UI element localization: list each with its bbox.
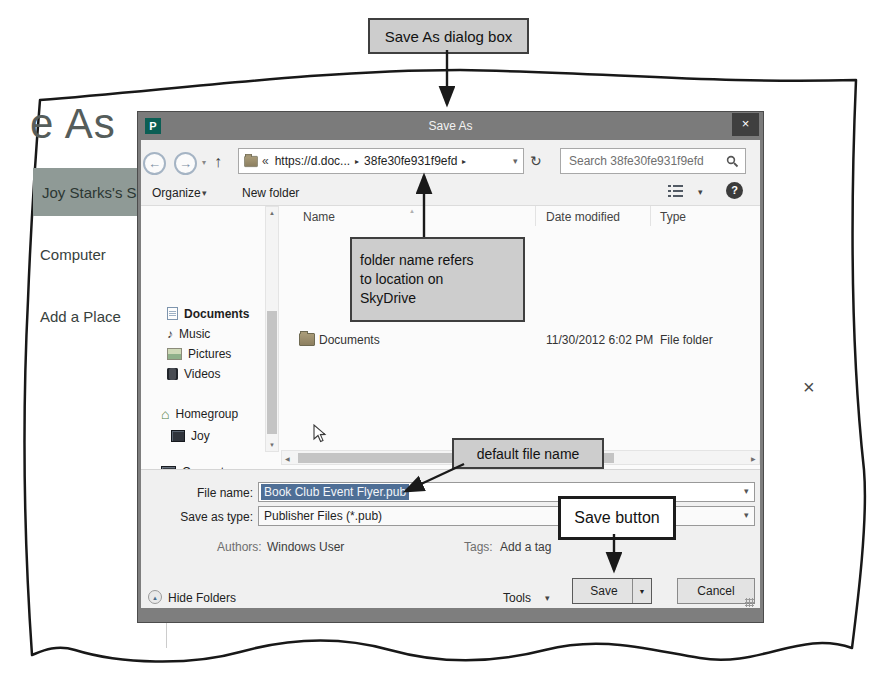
callout-default-filename: default file name — [452, 438, 604, 469]
save-as-dialog: P Save As × ← → ▾ ↑ « https://d.doc... ▸… — [138, 112, 763, 622]
column-header-type[interactable]: Type — [660, 210, 686, 224]
sidebar-item-pictures[interactable]: Pictures — [167, 346, 231, 361]
breadcrumb-folder[interactable]: 38fe30fe931f9efd — [364, 154, 457, 168]
scroll-right-icon[interactable]: ▶ — [751, 455, 756, 462]
dialog-titlebar[interactable]: P Save As × — [138, 112, 763, 140]
tags-label: Tags: — [464, 540, 493, 554]
breadcrumb-chevrons[interactable]: « — [262, 154, 269, 168]
history-dropdown-icon[interactable]: ▾ — [202, 158, 206, 167]
forward-icon[interactable]: → — [174, 152, 197, 175]
file-name-label: File name: — [158, 486, 253, 500]
column-divider[interactable] — [535, 206, 536, 226]
sidebar-item-music[interactable]: ♪ Music — [167, 326, 210, 341]
change-view-icon[interactable] — [668, 185, 683, 197]
file-row-name[interactable]: Documents — [319, 333, 380, 347]
tags-value[interactable]: Add a tag — [500, 540, 551, 554]
hide-folders-arrow-icon[interactable]: ▲ — [148, 590, 162, 604]
tools-button[interactable]: Tools — [503, 591, 531, 605]
hide-folders-button[interactable]: Hide Folders — [168, 591, 236, 605]
backstage-divider-line — [166, 622, 167, 648]
music-note-icon: ♪ — [167, 328, 173, 340]
close-button[interactable]: × — [732, 113, 759, 136]
sidebar-item-homegroup[interactable]: ⌂ Homegroup — [161, 406, 238, 421]
monitor-icon — [171, 430, 185, 442]
dialog-frame-bottom — [138, 608, 763, 622]
file-name-input[interactable]: Book Club Event Flyer.pub ▾ — [258, 482, 755, 502]
organize-dropdown-icon[interactable]: ▾ — [202, 188, 207, 198]
column-divider[interactable] — [650, 206, 651, 226]
film-icon — [167, 368, 178, 380]
up-icon[interactable]: ↑ — [214, 153, 222, 171]
save-button[interactable]: Save ▼ — [572, 578, 652, 604]
folder-icon — [299, 333, 315, 349]
dialog-title: Save As — [138, 119, 763, 133]
stray-x-mark: × — [803, 376, 815, 399]
backstage-item-skydrive[interactable]: Joy Starks's Sky — [42, 184, 152, 201]
scroll-down-icon[interactable]: ▼ — [269, 442, 275, 448]
cancel-button[interactable]: Cancel — [677, 578, 755, 604]
file-row-date[interactable]: 11/30/2012 6:02 PM — [546, 333, 653, 347]
save-type-label: Save as type: — [158, 510, 253, 524]
backstage-item-add-place[interactable]: Add a Place — [40, 308, 121, 325]
callout-save-button: Save button — [558, 496, 676, 540]
scroll-up-icon[interactable]: ▲ — [269, 210, 275, 216]
sort-indicator-icon: ▲ — [409, 208, 415, 214]
back-icon[interactable]: ← — [143, 152, 166, 175]
scroll-left-icon[interactable]: ◀ — [285, 455, 290, 462]
breadcrumb-root[interactable]: https://d.doc... — [275, 154, 350, 168]
save-split-dropdown-icon[interactable]: ▼ — [632, 579, 651, 603]
help-icon[interactable]: ? — [726, 182, 743, 199]
callout-dialog-box: Save As dialog box — [368, 18, 529, 54]
picture-icon — [167, 348, 182, 360]
homegroup-icon: ⌂ — [161, 408, 169, 420]
breadcrumb-separator-icon: ▸ — [355, 157, 359, 166]
tools-dropdown-icon[interactable]: ▾ — [545, 593, 550, 603]
new-folder-button[interactable]: New folder — [242, 186, 299, 200]
mouse-cursor — [313, 424, 327, 447]
nav-scrollbar[interactable]: ▲ ▼ — [265, 206, 279, 452]
refresh-icon[interactable]: ↻ — [530, 153, 542, 169]
save-type-value: Publisher Files (*.pub) — [264, 509, 382, 523]
authors-label: Authors: — [217, 540, 262, 554]
nav-scrollbar-thumb[interactable] — [267, 311, 277, 434]
dialog-frame-right — [760, 140, 763, 622]
sidebar-item-videos[interactable]: Videos — [167, 366, 220, 381]
sidebar-item-joy[interactable]: Joy — [171, 428, 210, 443]
search-icon — [726, 155, 738, 167]
column-header-name[interactable]: Name — [303, 210, 335, 224]
callout-folder-name: folder name refers to location on SkyDri… — [350, 237, 525, 322]
resize-grip[interactable] — [745, 598, 754, 607]
breadcrumb-separator2-icon: ▸ — [462, 157, 466, 166]
search-input[interactable] — [560, 148, 746, 174]
authors-value[interactable]: Windows User — [267, 540, 344, 554]
file-name-value[interactable]: Book Club Event Flyer.pub — [261, 484, 409, 500]
figure-canvas: e As Joy Starks's Sky Computer Add a Pla… — [0, 0, 879, 680]
folder-icon — [244, 155, 258, 166]
backstage-heading: e As — [30, 100, 116, 148]
file-name-dropdown-icon[interactable]: ▾ — [744, 486, 749, 496]
save-type-select[interactable]: Publisher Files (*.pub) ▾ — [258, 506, 755, 526]
organize-button[interactable]: Organize — [152, 186, 201, 200]
view-dropdown-icon[interactable]: ▾ — [698, 187, 703, 197]
save-type-dropdown-icon[interactable]: ▾ — [744, 510, 749, 520]
file-row-type[interactable]: File folder — [660, 333, 713, 347]
document-icon — [167, 307, 178, 320]
backstage-item-computer[interactable]: Computer — [40, 246, 106, 263]
sidebar-item-documents[interactable]: Documents — [167, 306, 249, 321]
column-header-date[interactable]: Date modified — [546, 210, 620, 224]
address-dropdown-icon[interactable]: ▾ — [513, 156, 518, 166]
address-bar[interactable]: « https://d.doc... ▸ 38fe30fe931f9efd ▸ … — [238, 148, 524, 174]
